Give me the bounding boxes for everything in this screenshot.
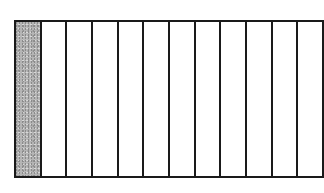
unshaded-part xyxy=(196,22,222,176)
unshaded-part xyxy=(144,22,170,176)
unshaded-part xyxy=(247,22,273,176)
unshaded-part xyxy=(221,22,247,176)
unshaded-part xyxy=(93,22,119,176)
unshaded-part xyxy=(119,22,145,176)
unshaded-part xyxy=(170,22,196,176)
unshaded-part xyxy=(42,22,68,176)
unshaded-part xyxy=(273,22,299,176)
unshaded-part xyxy=(298,22,322,176)
shaded-part xyxy=(16,22,42,176)
unshaded-part xyxy=(67,22,93,176)
fraction-bar xyxy=(14,20,324,178)
